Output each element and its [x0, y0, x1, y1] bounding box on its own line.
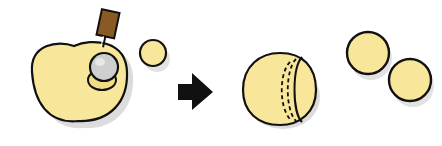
- small-melon-ball-icon: [140, 40, 166, 66]
- melon-baller-diagram: [0, 0, 442, 146]
- baller-scoop-icon: [90, 53, 118, 81]
- right-arrow-icon: [178, 73, 213, 110]
- baller-handle-icon: [97, 9, 120, 38]
- result-step: [243, 32, 434, 129]
- melon-ball-1-icon: [347, 32, 389, 74]
- scooped-melon-icon: [243, 53, 316, 125]
- scooping-step: [32, 9, 170, 128]
- melon-ball-2-icon: [389, 59, 431, 101]
